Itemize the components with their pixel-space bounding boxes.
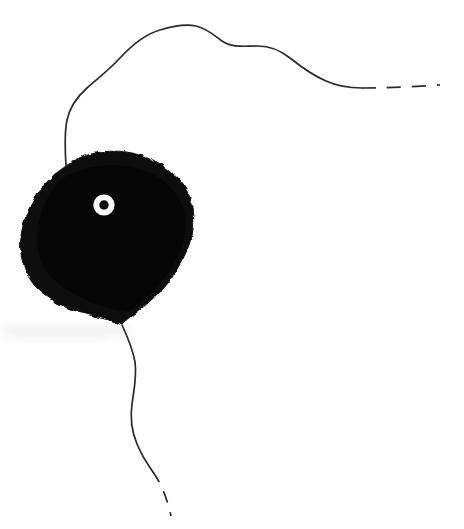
eye bbox=[93, 194, 114, 215]
illustration-canvas: Blob Creature with Antennae black amoeba… bbox=[0, 0, 464, 529]
blob-creature-drawing bbox=[0, 0, 464, 529]
paper-smudge bbox=[2, 326, 128, 339]
eye-pupil bbox=[99, 200, 108, 209]
